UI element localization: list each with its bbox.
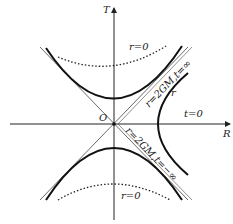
- r-zero-bottom-label: r=0: [121, 190, 141, 201]
- r-axis-label: R: [222, 128, 231, 139]
- singularity-top: [58, 46, 166, 66]
- kruskal-diagram: T R O r=0 r=0 t=0 r r=2GM,t=∞ r=2GM,t=−∞: [0, 0, 233, 224]
- r-curve-label: r: [171, 87, 177, 98]
- horizon-line-future-2: [118, 47, 192, 124]
- diagram-svg: T R O r=0 r=0 t=0 r r=2GM,t=∞ r=2GM,t=−∞: [0, 0, 233, 224]
- origin-label: O: [99, 112, 107, 123]
- r-zero-top-label: r=0: [129, 41, 149, 52]
- origin-point: [112, 122, 116, 126]
- horizon-past-label: r=2GM,t=−∞: [124, 125, 181, 183]
- t-axis-label: T: [103, 4, 111, 15]
- t-zero-label: t=0: [184, 108, 203, 119]
